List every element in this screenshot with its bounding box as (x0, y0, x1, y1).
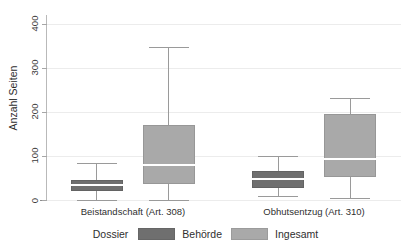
y-tick-100 (42, 156, 47, 157)
median-line (252, 178, 304, 180)
whisker-cap-upper (258, 156, 298, 157)
whisker-upper (278, 156, 279, 171)
y-axis-line (46, 15, 47, 200)
y-tick-400 (42, 24, 47, 25)
plot-area: 400 300 200 100 0 (46, 15, 401, 200)
y-axis-title: Anzahl Seiten (7, 23, 19, 173)
y-tick-label-400: 400 (28, 17, 42, 31)
legend-label-ingesamt: Ingesamt (275, 228, 318, 240)
box-plot-behörde-0 (71, 15, 123, 200)
legend-label-behoerde: Behörde (182, 228, 222, 240)
box-plot-behörde-1 (252, 15, 304, 200)
legend-item-ingesamt: Ingesamt (231, 228, 318, 240)
legend-title: Dossier (93, 228, 129, 240)
whisker-cap-lower (330, 198, 370, 199)
x-axis-label-beistandschaft: Beistandschaft (Art. 308) (53, 206, 213, 217)
y-tick-label-200: 200 (28, 105, 42, 119)
legend-item-behoerde: Behörde (138, 228, 222, 240)
whisker-lower (168, 184, 169, 200)
y-tick-200 (42, 112, 47, 113)
box-plot-ingesamt-1 (324, 15, 376, 200)
whisker-upper (168, 47, 169, 125)
whisker-lower (96, 191, 97, 200)
y-tick-label-100: 100 (28, 149, 42, 163)
median-line (324, 158, 376, 160)
box-iqr (143, 125, 195, 184)
y-axis-title-container: Anzahl Seiten (0, 0, 20, 200)
whisker-lower (350, 177, 351, 199)
legend-swatch-behoerde (138, 228, 175, 240)
whisker-cap-upper (77, 163, 117, 164)
box-iqr (324, 114, 376, 177)
y-tick-0 (42, 200, 47, 201)
median-line (71, 184, 123, 186)
whisker-upper (96, 163, 97, 181)
x-axis-label-obhutsentzug: Obhutsentzug (Art. 310) (234, 206, 394, 217)
whisker-upper (350, 98, 351, 114)
y-tick-300 (42, 68, 47, 69)
legend-swatch-ingesamt (231, 228, 268, 240)
whisker-lower (278, 188, 279, 195)
y-tick-label-0: 0 (28, 193, 42, 207)
whisker-cap-upper (330, 98, 370, 99)
whisker-cap-lower (149, 200, 189, 201)
whisker-cap-upper (149, 47, 189, 48)
box-plot-chart: Anzahl Seiten 400 300 200 100 0 Beistand… (0, 0, 411, 247)
y-tick-label-300: 300 (28, 61, 42, 75)
plot-right-edge (401, 15, 402, 200)
whisker-cap-lower (77, 200, 117, 201)
whisker-cap-lower (258, 196, 298, 197)
chart-legend: Dossier Behörde Ingesamt (0, 225, 411, 243)
median-line (143, 164, 195, 166)
box-plot-ingesamt-0 (143, 15, 195, 200)
